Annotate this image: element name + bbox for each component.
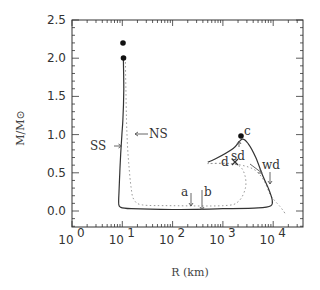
x-tick-exponent: 0 xyxy=(77,226,85,240)
x-tick-label: 10 xyxy=(109,233,124,247)
y-axis-title: M/M⊙ xyxy=(14,110,27,145)
x-tick-label: 10 xyxy=(209,233,224,247)
d-label: d xyxy=(221,155,229,169)
b-label: b xyxy=(204,185,212,199)
wd-label: wd xyxy=(262,158,280,172)
x-tick-exponent: 2 xyxy=(178,226,186,240)
max-mass-point-upper xyxy=(120,40,126,46)
sd-label: sd xyxy=(231,149,245,163)
point-c xyxy=(238,133,244,139)
y-tick-label: 0.0 xyxy=(47,204,66,218)
y-axis-tick-labels: 0.00.51.01.52.02.5 xyxy=(47,13,66,218)
y-tick-label: 0.5 xyxy=(47,166,66,180)
y-tick-label: 2.5 xyxy=(47,13,66,27)
y-tick-label: 1.0 xyxy=(47,128,66,142)
x-tick-label: 10 xyxy=(159,233,174,247)
c-label: c xyxy=(244,124,251,138)
ss-label: SS xyxy=(90,139,106,153)
x-tick-exponent: 1 xyxy=(127,226,135,240)
ns-label: NS xyxy=(149,127,168,141)
y-tick-label: 2.0 xyxy=(47,51,66,65)
max-mass-point-lower xyxy=(121,55,127,61)
y-tick-label: 1.5 xyxy=(47,89,66,103)
x-axis-tick-labels: 100101102103104 xyxy=(58,226,285,247)
x-tick-exponent: 4 xyxy=(278,226,286,240)
x-tick-label: 10 xyxy=(260,233,275,247)
x-tick-label: 10 xyxy=(58,233,73,247)
x-tick-exponent: 3 xyxy=(228,226,236,240)
mass-radius-chart: 100101102103104 0.00.51.01.52.02.5 SS xyxy=(0,0,320,290)
a-label: a xyxy=(181,185,188,199)
x-axis-title: R (km) xyxy=(171,266,208,279)
